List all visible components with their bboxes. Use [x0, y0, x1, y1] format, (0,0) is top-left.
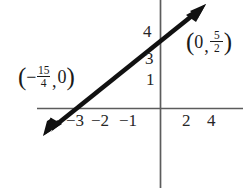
y-intercept-label: ( 0 , 5 2 )	[186, 29, 232, 54]
x-coordinate-value: 0	[194, 33, 203, 51]
open-paren: (	[18, 65, 26, 86]
minus-sign: −	[26, 68, 36, 86]
x-intercept-label: ( − 15 4 , 0 )	[18, 64, 75, 89]
y-tick-label-4: 4	[143, 23, 152, 40]
fraction-denominator: 2	[213, 42, 221, 54]
close-paren: )	[66, 65, 74, 86]
x-tick-label-2: 2	[182, 112, 191, 129]
y-tick-label-1: 1	[146, 71, 155, 88]
line-graph-figure: 4 3 1 −3 −2 −1 2 4 ( − 15 4 , 0 ) ( 0 , …	[0, 0, 249, 194]
fraction-numerator: 15	[37, 64, 51, 76]
close-paren: )	[224, 30, 232, 51]
x-tick-label-minus-2: −2	[91, 112, 109, 129]
coordinate-comma: ,	[203, 37, 210, 55]
fraction-denominator: 4	[40, 77, 48, 89]
fraction-5-over-2: 5 2	[210, 29, 223, 54]
coordinate-comma: ,	[51, 72, 58, 90]
x-tick-label-minus-3: −3	[66, 112, 84, 129]
x-tick-label-4: 4	[207, 112, 216, 129]
x-tick-label-minus-1: −1	[119, 112, 137, 129]
fraction-numerator: 5	[213, 29, 221, 41]
fraction-15-over-4: 15 4	[37, 64, 51, 89]
y-tick-label-3: 3	[145, 50, 154, 67]
open-paren: (	[186, 30, 194, 51]
y-coordinate-value: 0	[57, 68, 66, 86]
